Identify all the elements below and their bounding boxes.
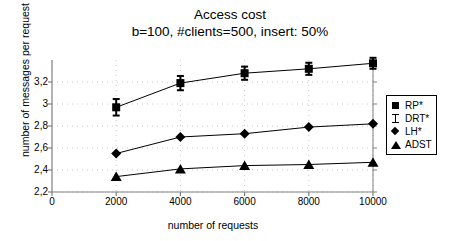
diamond-marker-icon — [390, 125, 403, 138]
legend-item-drtstar[interactable]: DRT* — [390, 112, 432, 125]
square-marker-icon — [390, 99, 403, 112]
chart-legend: RP*DRT*LH*ADST — [386, 95, 437, 155]
legend-item-label: DRT* — [405, 113, 429, 124]
legend-item-lhstar[interactable]: LH* — [390, 125, 432, 138]
legend-item-rpstar[interactable]: RP* — [390, 99, 432, 112]
legend-item-label: LH* — [405, 126, 422, 137]
access-cost-chart: Access cost b=100, #clients=500, insert:… — [0, 0, 459, 241]
legend-item-label: ADST — [405, 139, 432, 150]
ibeam-marker-icon — [390, 112, 403, 125]
legend-item-adst[interactable]: ADST — [390, 138, 432, 151]
legend-item-label: RP* — [405, 100, 423, 111]
triangle-marker-icon — [390, 138, 403, 151]
